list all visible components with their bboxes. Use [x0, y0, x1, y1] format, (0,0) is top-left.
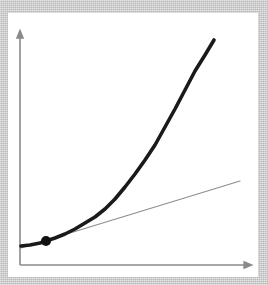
marker-group — [41, 236, 51, 246]
tangent-line-chart — [0, 0, 268, 285]
figure-root — [0, 0, 268, 285]
function-curve — [21, 40, 214, 246]
axis-group — [20, 38, 244, 265]
tangent-point-marker — [41, 236, 51, 246]
series-group — [21, 40, 240, 248]
